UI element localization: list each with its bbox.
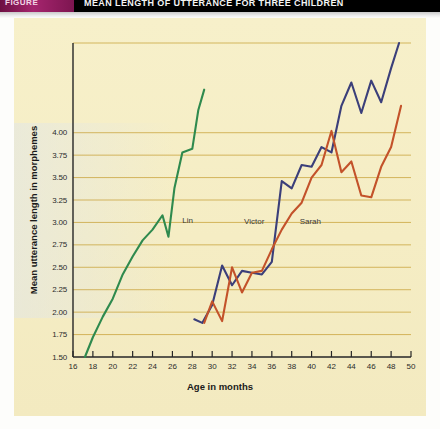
x-tick-label: 28 bbox=[182, 362, 202, 371]
x-tick-label: 44 bbox=[341, 362, 361, 371]
x-tick-label: 46 bbox=[361, 362, 381, 371]
y-tick-label: 3.25 bbox=[37, 196, 67, 205]
x-tick-label: 24 bbox=[143, 362, 163, 371]
x-tick-label: 36 bbox=[262, 362, 282, 371]
x-tick-label: 26 bbox=[162, 362, 182, 371]
y-tick-label: 2.50 bbox=[37, 263, 67, 272]
series-label-lin: Lin bbox=[182, 216, 193, 225]
x-tick-label: 34 bbox=[242, 362, 262, 371]
x-tick-label: 42 bbox=[321, 362, 341, 371]
x-tick-label: 48 bbox=[381, 362, 401, 371]
x-tick-label: 16 bbox=[63, 362, 83, 371]
figure-caption-title: MEAN LENGTH OF UTTERANCE FOR THREE CHILD… bbox=[84, 0, 344, 8]
x-tick-label: 32 bbox=[222, 362, 242, 371]
x-tick-label: 18 bbox=[83, 362, 103, 371]
chart-background bbox=[14, 18, 426, 416]
x-axis-title: Age in months bbox=[0, 381, 440, 392]
x-tick-label: 50 bbox=[401, 362, 421, 371]
figure-page: FIGURE MEAN LENGTH OF UTTERANCE FOR THRE… bbox=[0, 0, 440, 429]
figure-number-label: FIGURE bbox=[5, 0, 38, 7]
x-tick-label: 38 bbox=[282, 362, 302, 371]
y-tick-label: 3.75 bbox=[37, 151, 67, 160]
y-tick-label: 2.00 bbox=[37, 308, 67, 317]
x-tick-label: 40 bbox=[302, 362, 322, 371]
series-label-sarah: Sarah bbox=[300, 217, 321, 226]
y-tick-label: 4.00 bbox=[37, 128, 67, 137]
chart-panel bbox=[14, 18, 426, 416]
x-tick-label: 20 bbox=[103, 362, 123, 371]
y-tick-label: 3.00 bbox=[37, 218, 67, 227]
series-label-victor: Victor bbox=[244, 217, 264, 226]
y-tick-label: 3.50 bbox=[37, 173, 67, 182]
x-tick-label: 22 bbox=[123, 362, 143, 371]
figure-caption-bar: FIGURE MEAN LENGTH OF UTTERANCE FOR THRE… bbox=[0, 0, 440, 12]
y-tick-label: 1.75 bbox=[37, 330, 67, 339]
y-tick-label: 1.50 bbox=[37, 353, 67, 362]
y-tick-label: 2.25 bbox=[37, 285, 67, 294]
y-tick-label: 2.75 bbox=[37, 240, 67, 249]
x-tick-label: 30 bbox=[202, 362, 222, 371]
